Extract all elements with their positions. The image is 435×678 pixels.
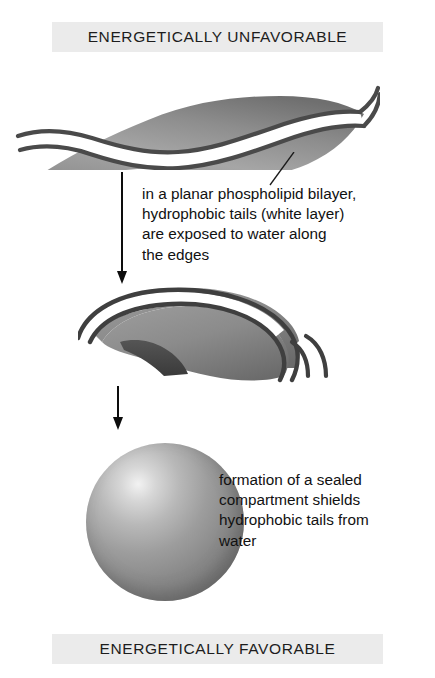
energetically-unfavorable-banner: ENERGETICALLY UNFAVORABLE xyxy=(52,22,383,52)
banner-bottom-label: ENERGETICALLY FAVORABLE xyxy=(99,640,335,658)
curved-bilayer-svg xyxy=(78,282,362,394)
planar-bilayer-sheet-illustration xyxy=(8,74,380,170)
energetically-favorable-banner: ENERGETICALLY FAVORABLE xyxy=(52,634,383,664)
transition-arrow-2 xyxy=(110,386,126,430)
sphere-caption: formation of a sealed compartment shield… xyxy=(219,470,434,551)
caption-leader-line xyxy=(268,152,296,186)
banner-top-label: ENERGETICALLY UNFAVORABLE xyxy=(88,28,348,46)
arrow-2-head xyxy=(113,417,123,430)
arrow-2-shaft xyxy=(117,386,119,418)
transition-arrow-1 xyxy=(114,172,130,284)
planar-bilayer-caption: in a planar phospholipid bilayer, hydrop… xyxy=(142,184,432,265)
planar-bilayer-svg xyxy=(8,74,380,170)
curved-bilayer-cup-illustration xyxy=(78,282,362,394)
arrow-1-shaft xyxy=(121,172,123,272)
